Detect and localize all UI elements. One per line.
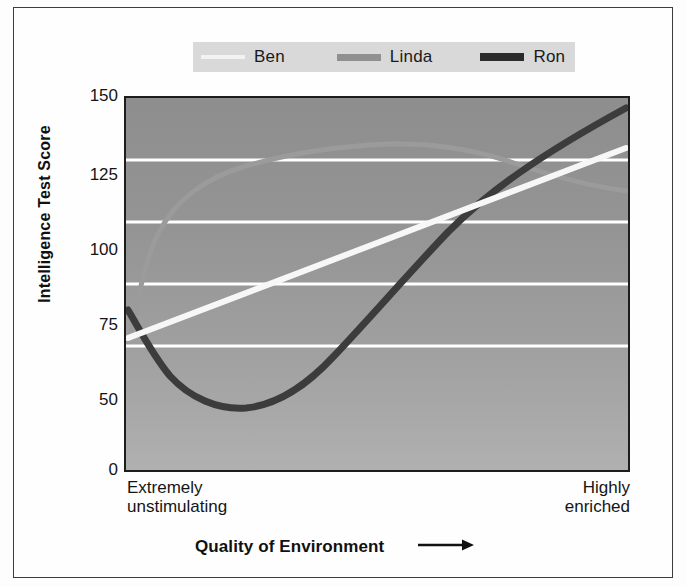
y-tick-50: 50 bbox=[62, 390, 118, 410]
plot-area bbox=[124, 96, 630, 472]
legend-entry-ben[interactable]: Ben bbox=[201, 42, 285, 72]
y-tick-125: 125 bbox=[62, 165, 118, 185]
legend-label-ben: Ben bbox=[254, 47, 285, 67]
y-tick-100: 100 bbox=[62, 240, 118, 260]
x-axis-label-right-line1: Highly bbox=[490, 478, 630, 497]
legend-entry-ron[interactable]: Ron bbox=[480, 42, 565, 72]
x-axis-title: Quality of Environment bbox=[195, 537, 384, 557]
chart-figure: Ben Linda Ron Intelligence Test Score 15… bbox=[0, 0, 687, 587]
y-axis-tick-labels: 150 125 100 75 50 0 bbox=[56, 0, 118, 587]
legend-entry-linda[interactable]: Linda bbox=[337, 42, 433, 72]
x-axis-label-right: Highly enriched bbox=[490, 478, 630, 516]
x-axis-label-left-line1: Extremely bbox=[127, 478, 227, 497]
chart-canvas bbox=[126, 98, 628, 470]
right-arrow-icon bbox=[418, 537, 474, 557]
x-axis-label-left: Extremely unstimulating bbox=[127, 478, 227, 516]
legend-swatch-linda-icon bbox=[337, 54, 381, 61]
y-tick-75: 75 bbox=[62, 315, 118, 335]
x-axis-title-group: Quality of Environment bbox=[195, 537, 474, 557]
legend-swatch-ben-icon bbox=[201, 55, 245, 59]
legend-label-ron: Ron bbox=[533, 47, 565, 67]
series-line-ron bbox=[128, 108, 626, 408]
chart-legend: Ben Linda Ron bbox=[193, 42, 575, 72]
y-axis-title: Intelligence Test Score bbox=[36, 99, 54, 329]
legend-swatch-ron-icon bbox=[480, 53, 524, 61]
x-axis-label-right-line2: enriched bbox=[490, 497, 630, 516]
y-tick-0: 0 bbox=[62, 460, 118, 480]
x-axis-label-left-line2: unstimulating bbox=[127, 497, 227, 516]
legend-label-linda: Linda bbox=[390, 47, 433, 67]
y-tick-150: 150 bbox=[62, 86, 118, 106]
